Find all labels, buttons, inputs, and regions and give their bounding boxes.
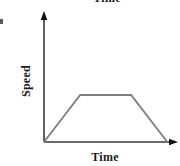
x-axis-arrowhead-icon	[169, 139, 178, 146]
speed-curve	[44, 95, 167, 142]
y-axis-label: Speed	[19, 65, 34, 97]
x-axis-label: Time	[91, 150, 119, 165]
figure-canvas: Time Speed Time	[0, 0, 180, 166]
y-axis-arrowhead-icon	[41, 11, 48, 20]
